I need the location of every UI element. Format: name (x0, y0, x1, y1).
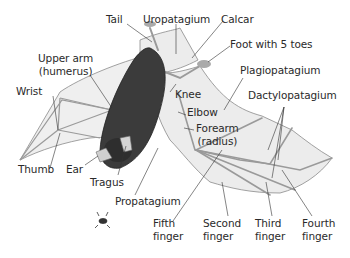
label-fifth-finger: Fifth finger (153, 217, 183, 243)
label-second-finger: Second finger (203, 217, 241, 243)
label-uropatagium: Uropatagium (143, 13, 210, 26)
bat-anatomy-diagram: Tail Uropatagium Calcar Foot with 5 toes… (0, 0, 350, 258)
label-foot: Foot with 5 toes (230, 38, 312, 51)
label-upper-arm: Upper arm (humerus) (38, 52, 93, 78)
label-calcar: Calcar (221, 13, 254, 26)
insect (95, 212, 110, 228)
label-forearm: Forearm (radius) (196, 122, 239, 148)
label-thumb: Thumb (18, 163, 54, 176)
label-tail: Tail (106, 13, 123, 26)
label-dactylopatagium: Dactylopatagium (248, 89, 337, 102)
label-plagiopatagium: Plagiopatagium (240, 64, 320, 77)
label-fourth-finger: Fourth finger (302, 217, 335, 243)
label-knee: Knee (175, 88, 201, 101)
label-wrist: Wrist (16, 85, 42, 98)
label-tragus: Tragus (90, 176, 124, 189)
label-elbow: Elbow (187, 106, 218, 119)
label-propatagium: Propatagium (115, 195, 181, 208)
label-third-finger: Third finger (255, 217, 285, 243)
label-ear: Ear (66, 163, 83, 176)
